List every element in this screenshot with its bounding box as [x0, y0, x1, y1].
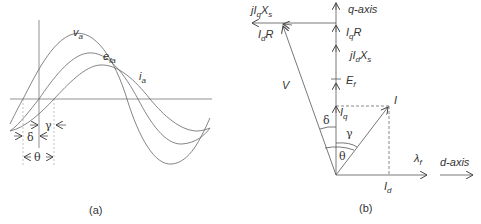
- delta-arc: [320, 127, 336, 129]
- q-axis-label: q-axis: [348, 3, 378, 15]
- gamma-arc: [336, 143, 357, 147]
- phasor-figure: jIqXs IdR q-axis IqR jIdXs Ef V I Iq δ γ…: [249, 2, 473, 214]
- va-label: va: [73, 26, 84, 41]
- id-label: Id: [384, 180, 392, 195]
- idr-label: IdR: [258, 28, 274, 43]
- iqr-label: IqR: [346, 26, 362, 41]
- gamma-angle-label: γ: [346, 127, 353, 140]
- v-vector: [283, 26, 336, 175]
- theta-angle-label: θ: [339, 150, 346, 163]
- ia-label: ia: [139, 70, 146, 85]
- delta-label: δ: [27, 131, 34, 144]
- ef-label: Ef: [346, 74, 356, 89]
- waveform-figure: va efa ia γ δ θ (a): [10, 20, 212, 216]
- jidxs-label: jIdXs: [348, 49, 371, 64]
- jiqxs-label: jIqXs: [249, 4, 272, 19]
- phasor-diagram: va efa ia γ δ θ (a): [0, 0, 481, 224]
- delta-angle-label: δ: [323, 114, 330, 127]
- caption-b: (b): [359, 202, 372, 214]
- efa-label: efa: [103, 50, 116, 65]
- lambda-f-label: λf: [413, 152, 422, 167]
- caption-a: (a): [89, 204, 102, 216]
- d-axis-label: d-axis: [440, 156, 470, 168]
- gamma-label: γ: [45, 119, 52, 132]
- v-label: V: [282, 79, 291, 91]
- i-label: I: [394, 94, 397, 106]
- iq-label: Iq: [340, 106, 348, 121]
- theta-label: θ: [34, 151, 41, 164]
- idr-vector: [283, 24, 292, 25]
